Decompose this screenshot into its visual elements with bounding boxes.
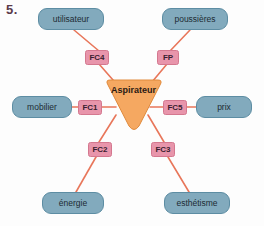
node-label: poussières xyxy=(174,15,215,24)
function-label: FC5 xyxy=(167,104,182,112)
node-label: prix xyxy=(217,103,231,112)
wire-energie-fc2 xyxy=(76,157,96,192)
node-energie[interactable]: énergie xyxy=(42,192,104,214)
center-label-aspirateur: Aspirateur xyxy=(111,85,156,95)
node-label: esthétisme xyxy=(176,199,217,208)
node-label: utilisateur xyxy=(53,15,89,24)
wire-utilisateur-fc4 xyxy=(74,30,99,51)
wire-fc2-center xyxy=(99,115,116,142)
diagram-canvas: 5. Aspirateur utilisateur poussières mob… xyxy=(0,0,264,226)
node-label: énergie xyxy=(59,199,87,208)
function-box-fc5[interactable]: FC5 xyxy=(163,100,187,115)
node-poussieres[interactable]: poussières xyxy=(162,8,228,30)
function-box-fc2[interactable]: FC2 xyxy=(88,142,112,157)
node-label: mobilier xyxy=(27,103,57,112)
exercise-number: 5. xyxy=(6,2,18,17)
function-box-fc1[interactable]: FC1 xyxy=(78,100,102,115)
node-prix[interactable]: prix xyxy=(196,96,252,118)
node-utilisateur[interactable]: utilisateur xyxy=(38,8,104,30)
function-box-fp[interactable]: FP xyxy=(157,50,179,65)
wire-poussieres-fp xyxy=(170,30,190,51)
function-box-fc3[interactable]: FC3 xyxy=(151,142,175,157)
node-esthetisme[interactable]: esthétisme xyxy=(164,192,230,214)
wire-esthetisme-fc3 xyxy=(168,157,189,192)
node-mobilier[interactable]: mobilier xyxy=(12,96,72,118)
function-label: FP xyxy=(163,54,173,62)
function-box-fc4[interactable]: FC4 xyxy=(85,50,109,65)
function-label: FC1 xyxy=(82,104,97,112)
wire-fc3-center xyxy=(148,115,164,142)
function-label: FC4 xyxy=(89,54,104,62)
function-label: FC2 xyxy=(92,146,107,154)
function-label: FC3 xyxy=(155,146,170,154)
